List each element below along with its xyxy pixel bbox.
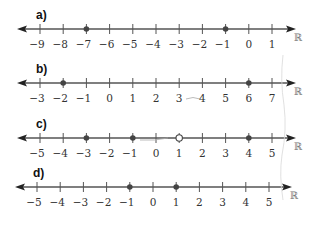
tick-label: −3 (76, 147, 91, 159)
tick-label: −8 (52, 38, 67, 50)
tick-label: −3 (168, 38, 183, 50)
tick-label: 1 (173, 196, 180, 208)
closed-point-icon (223, 26, 229, 32)
tick-label: −7 (76, 38, 91, 50)
tick-label: 0 (153, 147, 160, 159)
closed-point-icon (173, 184, 179, 190)
line-label-b: b) (36, 62, 47, 76)
tick-label: 6 (245, 92, 252, 104)
tick-label: −3 (73, 196, 88, 208)
number-lines-canvas (0, 0, 310, 227)
tick-label: −5 (122, 38, 137, 50)
tick-label: −2 (192, 38, 207, 50)
tick-label: 4 (242, 196, 249, 208)
tick-label: −2 (96, 196, 111, 208)
line-label-d: d) (33, 166, 44, 180)
tick-label: −5 (29, 147, 44, 159)
tick-label: 1 (269, 38, 276, 50)
line-label-a: a) (36, 8, 47, 22)
tick-label: −3 (29, 92, 44, 104)
tick-label: 0 (245, 38, 252, 50)
tick-label: 3 (176, 92, 183, 104)
real-numbers-symbol: ℝ (294, 32, 302, 43)
tick-label: 3 (219, 196, 226, 208)
real-numbers-symbol: ℝ (290, 190, 298, 201)
tick-label: 0 (150, 196, 157, 208)
tick-label: 7 (269, 92, 276, 104)
tick-label: −4 (52, 147, 67, 159)
page-edge-line (281, 55, 285, 200)
closed-point-icon (246, 80, 252, 86)
tick-label: 5 (222, 92, 229, 104)
closed-point-icon (60, 80, 66, 86)
closed-point-icon (246, 135, 252, 141)
closed-point-icon (84, 26, 90, 32)
tick-label: −5 (26, 196, 41, 208)
real-numbers-symbol: ℝ (294, 86, 302, 97)
tick-label: −4 (145, 38, 160, 50)
tick-label: 4 (245, 147, 252, 159)
closed-point-icon (84, 135, 90, 141)
tick-label: −4 (49, 196, 64, 208)
real-numbers-symbol: ℝ (294, 141, 302, 152)
tick-label: 2 (199, 147, 206, 159)
tick-label: 5 (269, 147, 276, 159)
tick-label: −6 (99, 38, 114, 50)
tick-label: 1 (176, 147, 183, 159)
tick-label: −1 (76, 92, 91, 104)
tick-label: −2 (52, 92, 67, 104)
line-label-c: c) (36, 117, 47, 131)
tick-label: 5 (266, 196, 273, 208)
tick-label: −9 (29, 38, 44, 50)
tick-label: −2 (99, 147, 114, 159)
tick-label: −1 (119, 196, 134, 208)
tick-label: 1 (129, 92, 136, 104)
tick-label: 2 (196, 196, 203, 208)
tick-label: 0 (106, 92, 113, 104)
open-point-icon (176, 135, 182, 141)
tick-label: 3 (222, 147, 229, 159)
pencil-mark (186, 98, 200, 100)
closed-point-icon (130, 135, 136, 141)
tick-label: 2 (153, 92, 160, 104)
tick-label: −1 (122, 147, 137, 159)
tick-label: 4 (199, 92, 206, 104)
tick-label: −1 (215, 38, 230, 50)
closed-point-icon (127, 184, 133, 190)
